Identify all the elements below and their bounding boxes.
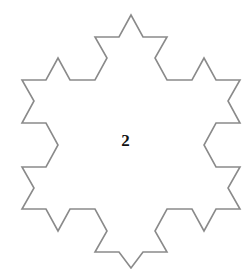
diagram-canvas: 2: [0, 0, 251, 269]
figure-label: 2: [0, 131, 251, 151]
